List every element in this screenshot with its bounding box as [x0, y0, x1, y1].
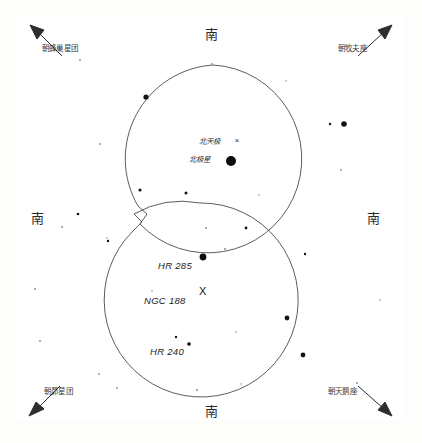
cardinal-label-right: 南	[367, 212, 380, 225]
cardinal-label-left: 南	[31, 212, 44, 225]
corner-label-top-left: 朝蜂巢星团	[42, 45, 78, 53]
object-label-ngc-188: NGC 188	[144, 296, 186, 306]
cardinal-label-bottom: 南	[205, 405, 218, 418]
north-celestial-pole-marker: ×	[235, 137, 239, 144]
corner-label-bottom-right: 朝天鹅座	[328, 388, 357, 396]
corner-label-bottom-left: 朝昴星团	[44, 388, 73, 396]
object-label-hr-285: HR 285	[158, 261, 192, 271]
cardinal-label-top: 南	[205, 28, 218, 41]
chart-frame-border	[17, 16, 405, 421]
object-label-hr-240: HR 240	[150, 347, 184, 357]
polaris-marker	[226, 156, 236, 166]
polaris-label: 北极星	[189, 156, 210, 164]
corner-label-top-right: 朝牧夫座	[338, 45, 367, 53]
star-chart-figure: 南 南 南 南 朝蜂巢星团 朝牧夫座 朝昴星团 朝天鹅座 北天极 × 北极星 H…	[0, 0, 422, 443]
ngc-188-marker: X	[199, 286, 206, 297]
north-celestial-pole-label: 北天极	[199, 138, 220, 146]
